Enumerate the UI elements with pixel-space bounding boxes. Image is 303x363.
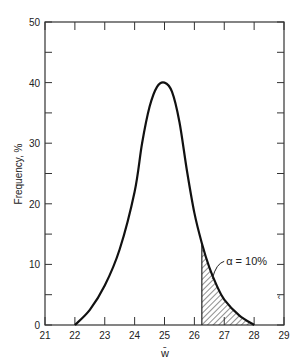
x-tick-label: 28: [249, 330, 261, 341]
y-tick-label: 10: [29, 259, 41, 270]
annotation-pointer: [212, 261, 224, 278]
y-tick-label: 50: [29, 17, 41, 28]
x-tick-label: 27: [219, 330, 231, 341]
x-tick-label: 24: [129, 330, 141, 341]
chart: 01020304050 212223242526272829 α = 10% F…: [0, 0, 303, 363]
x-axis-label: w̄: [160, 347, 169, 359]
y-axis-label: Frequency, %: [13, 143, 24, 204]
x-tick-label: 21: [39, 330, 51, 341]
x-tick-label: 25: [159, 330, 171, 341]
y-tick-label: 40: [29, 78, 41, 89]
y-tick-label: 30: [29, 138, 41, 149]
annotation-alpha: α = 10%: [226, 255, 267, 267]
x-tick-label: 26: [189, 330, 201, 341]
x-tick-label: 23: [99, 330, 111, 341]
x-tick-label: 29: [278, 330, 290, 341]
y-tick-label: 20: [29, 199, 41, 210]
distribution-curve: [75, 82, 254, 325]
x-tick-label: 22: [69, 330, 81, 341]
plot-frame: [45, 22, 284, 325]
right-edge-mark: ‹: [278, 292, 281, 302]
